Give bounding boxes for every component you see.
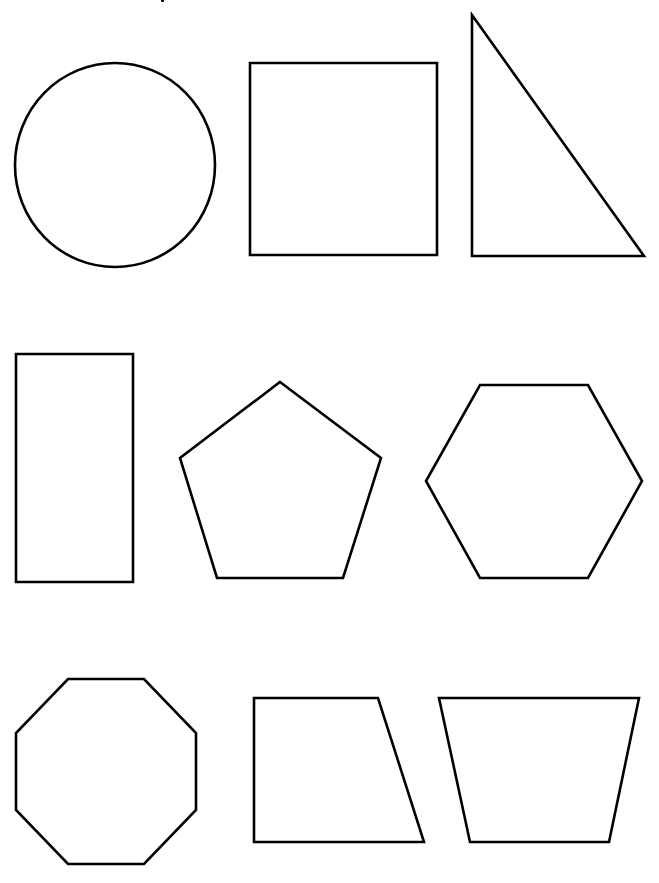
rectangle-shape	[16, 354, 133, 582]
square-shape	[250, 63, 437, 255]
shapes-worksheet	[0, 0, 659, 883]
hexagon-shape	[426, 385, 642, 578]
isosceles-trapezoid-shape	[439, 698, 639, 842]
right-triangle-shape	[472, 15, 644, 256]
right-trapezoid-shape	[254, 698, 424, 842]
octagon-shape	[16, 679, 196, 864]
circle-shape	[15, 63, 215, 267]
pentagon-shape	[180, 382, 381, 578]
